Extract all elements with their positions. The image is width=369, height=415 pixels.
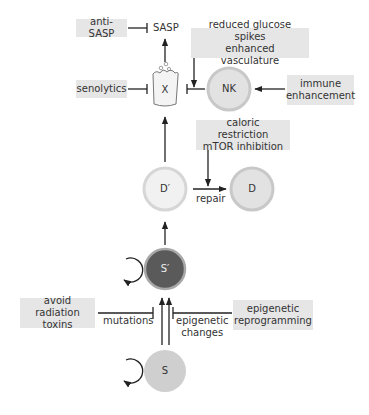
immune-enhancement-box: immune enhancement [287,75,354,105]
enhancement-line: enhancement [286,90,355,102]
epigenetic-reprogramming-box: epigenetic reprogramming [233,300,313,330]
senolytics-box: senolytics [76,80,127,98]
mutations-label: mutations [103,315,154,327]
node-d-label: D [232,183,272,194]
mtor-line: mTOR inhibition [203,141,283,153]
radiation-line: avoid radiation [24,295,91,319]
glucose-line: reduced glucose spikes [195,19,305,43]
reprog-line1: epigenetic [247,303,299,315]
anti-sasp-box: anti-SASP [76,19,127,37]
toxins-line: toxins [43,319,73,331]
glucose-vasculature-box: reduced glucose spikes enhanced vasculat… [191,28,309,58]
node-s-label: S [145,365,185,376]
reprog-line2: reprogramming [234,315,312,327]
caloric-line: caloric restriction [200,117,286,141]
epigenetic-changes-line2: changes [176,327,228,339]
immune-line: immune [300,78,341,90]
node-s-prime-label: S′ [145,263,185,274]
avoid-radiation-box: avoid radiation toxins [20,298,95,328]
node-nk-label: NK [209,83,249,94]
caloric-restriction-box: caloric restriction mTOR inhibition [196,120,290,150]
diagram-canvas [0,0,369,415]
epigenetic-changes-label: epigenetic changes [176,315,228,339]
node-x-label: X [145,84,185,95]
repair-label: repair [196,193,225,205]
sasp-label: SASP [153,22,179,34]
node-d-prime-label: D′ [145,183,185,194]
epigenetic-changes-line1: epigenetic [176,315,228,327]
vasculature-line: enhanced vasculature [195,43,305,67]
